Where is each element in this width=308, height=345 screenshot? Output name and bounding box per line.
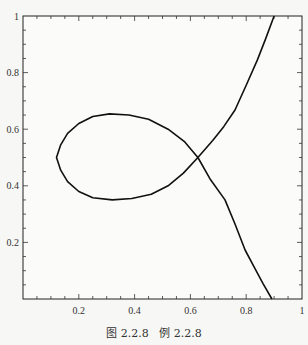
chart: 0.20.40.60.810.20.40.60.81 (0, 0, 308, 320)
caption-example: 例 2.2.8 (159, 327, 202, 340)
x-tick-label: 1 (300, 305, 305, 316)
y-tick-label: 0.4 (7, 180, 20, 191)
plot-frame (23, 16, 302, 299)
y-tick-label: 1 (14, 11, 19, 22)
caption-figure: 图 2.2.8 (106, 327, 149, 340)
y-tick-label: 0.6 (7, 124, 20, 135)
y-tick-label: 0.2 (7, 237, 20, 248)
figure-caption: 图 2.2.8 例 2.2.8 (0, 324, 308, 340)
x-tick-label: 0.2 (73, 305, 86, 316)
y-tick-label: 0.8 (7, 67, 20, 78)
x-tick-label: 0.8 (240, 305, 253, 316)
x-tick-label: 0.6 (184, 305, 197, 316)
x-tick-label: 0.4 (128, 305, 141, 316)
